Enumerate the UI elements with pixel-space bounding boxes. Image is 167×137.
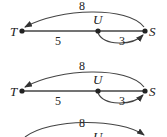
label-u: U <box>93 12 104 27</box>
weight-3: 3 <box>119 94 125 108</box>
weight-5: 5 <box>55 34 61 48</box>
node-t <box>19 88 24 93</box>
label-t: T <box>10 84 18 99</box>
node-s <box>142 88 147 93</box>
node-s <box>142 28 147 33</box>
edge-s-t-arc <box>25 72 144 87</box>
node-u <box>95 28 100 33</box>
label-s: S <box>149 84 156 99</box>
label-u: U <box>93 129 104 137</box>
node-t <box>19 28 24 33</box>
weight-8: 8 <box>79 0 85 13</box>
weight-5: 5 <box>55 94 61 108</box>
weight-3: 3 <box>119 34 125 48</box>
diagram-1: T U S 8 5 3 <box>10 0 156 48</box>
label-t: T <box>10 24 18 39</box>
diagram-2: T U S 8 5 3 <box>10 59 156 108</box>
weight-8: 8 <box>79 59 85 73</box>
label-u: U <box>93 72 104 87</box>
weight-8: 8 <box>79 116 85 130</box>
edge-s-t-arc <box>25 12 144 27</box>
diagram-3: 8 U <box>25 116 144 137</box>
graph-diagrams: T U S 8 5 3 T U S 8 5 3 8 U <box>0 0 167 137</box>
label-s: S <box>149 24 156 39</box>
node-u <box>95 88 100 93</box>
